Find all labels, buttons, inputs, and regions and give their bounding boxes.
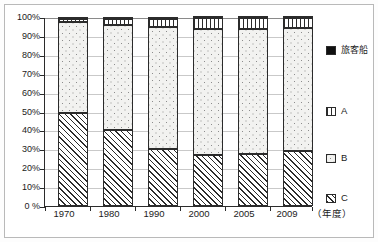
legend-swatch-dots-icon — [326, 154, 336, 163]
bar-1990-segment-A — [148, 19, 178, 28]
legend-label-b: B — [341, 153, 347, 163]
y-tick-30 — [40, 150, 45, 151]
x-axis-unit-label: （年度） — [312, 209, 352, 219]
x-tick-label-2005: 2005 — [222, 209, 266, 219]
y-tick-100 — [40, 18, 45, 19]
y-tick-label: 70% — [4, 70, 40, 79]
y-tick-label: 80% — [4, 51, 40, 60]
bar-2000-segment-A — [193, 18, 223, 29]
y-tick-10 — [40, 188, 45, 189]
bar-2000-segment-ryokakusen — [193, 16, 223, 18]
y-tick-80 — [40, 56, 45, 57]
bar-1980-segment-C — [103, 130, 133, 206]
legend-label-c: C — [341, 193, 348, 203]
legend-item-c: C — [326, 193, 348, 203]
chart-screenshot: 100% 90% 80% 70% 60% 50% 40% 30% 20% 10%… — [0, 0, 378, 242]
y-tick-label: 60% — [4, 89, 40, 98]
legend-item-b: B — [326, 153, 347, 163]
bar-2005-segment-B — [238, 29, 268, 154]
y-axis-labels: 100% 90% 80% 70% 60% 50% 40% 30% 20% 10%… — [0, 18, 40, 207]
legend-swatch-vertical-lines-icon — [326, 107, 336, 116]
legend-swatch-diagonal-hatch-icon — [326, 194, 336, 203]
bar-1990-segment-ryokakusen — [148, 17, 178, 19]
y-tick-label: 20% — [4, 164, 40, 173]
y-tick-label: 0 % — [4, 202, 40, 211]
bar-2009-segment-B — [283, 28, 313, 151]
y-tick-label: 50% — [4, 108, 40, 117]
y-tick-label: 100% — [4, 13, 40, 22]
bar-2005-segment-A — [238, 18, 268, 29]
bar-2005 — [238, 17, 268, 206]
bar-1990 — [148, 17, 178, 206]
stacked-bar-chart: 100% 90% 80% 70% 60% 50% 40% 30% 20% 10%… — [0, 0, 378, 242]
y-tick-label: 90% — [4, 32, 40, 41]
bar-2005-segment-ryokakusen — [238, 16, 268, 18]
bar-2005-segment-C — [238, 154, 268, 206]
bar-1980 — [103, 17, 133, 206]
y-tick-label: 10% — [4, 183, 40, 192]
bar-2000-segment-C — [193, 155, 223, 206]
legend-item-a: A — [326, 106, 347, 116]
bar-2009-segment-ryokakusen — [283, 16, 313, 18]
bar-1970-segment-B — [58, 22, 88, 114]
x-tick-label-1980: 1980 — [87, 209, 131, 219]
bar-2000 — [193, 17, 223, 206]
x-tick-label-1990: 1990 — [132, 209, 176, 219]
bar-1980-segment-ryokakusen — [103, 17, 133, 19]
y-tick-label: 40% — [4, 126, 40, 135]
bar-1990-segment-C — [148, 149, 178, 206]
y-tick-90 — [40, 37, 45, 38]
bar-1970 — [58, 17, 88, 206]
bar-1990-segment-B — [148, 27, 178, 149]
x-tick-label-1970: 1970 — [42, 209, 86, 219]
y-tick-50 — [40, 113, 45, 114]
legend-label-ryokakusen: 旅客船 — [341, 45, 368, 55]
legend-item-ryokakusen: 旅客船 — [326, 45, 368, 55]
y-tick-40 — [40, 131, 45, 132]
bar-2009-segment-C — [283, 151, 313, 206]
bar-1970-segment-A — [58, 19, 88, 22]
bar-1980-segment-B — [103, 25, 133, 131]
y-tick-70 — [40, 75, 45, 76]
x-tick-label-2000: 2000 — [177, 209, 221, 219]
legend-swatch-solid-black-icon — [326, 46, 336, 55]
y-tick-60 — [40, 94, 45, 95]
bar-2009 — [283, 17, 313, 206]
bar-1970-segment-ryokakusen — [58, 17, 88, 19]
bar-1970-segment-C — [58, 113, 88, 206]
y-tick-20 — [40, 169, 45, 170]
chart-legend: 旅客船 A B C — [326, 18, 378, 207]
legend-label-a: A — [341, 106, 347, 116]
y-tick-label: 30% — [4, 145, 40, 154]
bar-1980-segment-A — [103, 19, 133, 25]
plot-area — [44, 18, 312, 207]
x-tick-label-2009: 2009 — [265, 209, 309, 219]
bar-2000-segment-B — [193, 29, 223, 155]
bar-2009-segment-A — [283, 18, 313, 28]
